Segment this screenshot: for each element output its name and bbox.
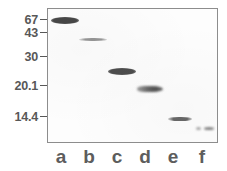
- gel-image-panel: [47, 8, 218, 143]
- mw-marker-tick-icon: [40, 116, 47, 117]
- mw-marker-label: 67: [24, 14, 47, 27]
- molecular-weight-axis: 67433020.114.4: [0, 0, 47, 145]
- gel-band: [108, 68, 136, 75]
- gel-band: [204, 127, 214, 130]
- mw-marker-value: 67: [24, 13, 38, 27]
- lane-label-b: b: [78, 146, 100, 168]
- mw-marker-value: 20.1: [14, 79, 38, 93]
- mw-marker-tick-icon: [40, 32, 47, 33]
- mw-marker-label: 30: [24, 51, 47, 64]
- lane-label-d: d: [134, 146, 156, 168]
- mw-marker-tick-icon: [40, 56, 47, 57]
- lane-label-a: a: [50, 146, 72, 168]
- mw-marker-value: 14.4: [14, 110, 38, 124]
- gel-electrophoresis-figure: 67433020.114.4 abcdef: [0, 0, 227, 171]
- lane-label-c: c: [106, 146, 128, 168]
- gel-band: [137, 86, 163, 92]
- mw-marker-value: 43: [24, 26, 38, 40]
- gel-band: [196, 127, 201, 130]
- lane-label-f: f: [191, 146, 213, 168]
- gel-band: [79, 38, 107, 41]
- lane-label-e: e: [162, 146, 184, 168]
- mw-marker-label: 43: [24, 27, 47, 40]
- lane-label-row: abcdef: [47, 146, 218, 171]
- gel-band: [168, 117, 192, 121]
- mw-marker-value: 30: [24, 50, 38, 64]
- mw-marker-tick-icon: [40, 19, 47, 20]
- mw-marker-tick-icon: [40, 85, 47, 86]
- mw-marker-label: 14.4: [14, 111, 47, 124]
- mw-marker-label: 20.1: [14, 80, 47, 93]
- gel-band: [51, 17, 79, 24]
